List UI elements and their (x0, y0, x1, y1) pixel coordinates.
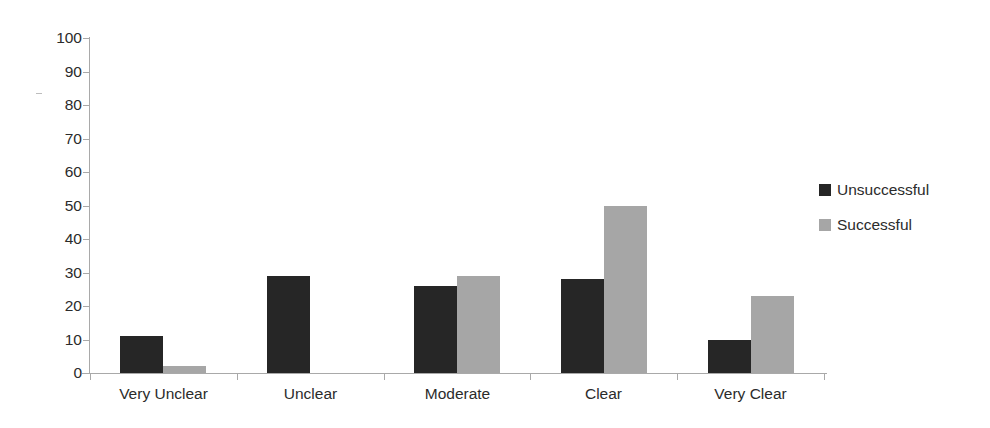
bar-unsuccessful-unclear (267, 276, 310, 373)
y-axis-tick-mark (83, 172, 90, 173)
bar-successful-clear (604, 206, 647, 374)
x-axis-tick-mark (530, 373, 531, 380)
bar-unsuccessful-clear (561, 279, 604, 373)
x-axis-tick-mark (824, 373, 825, 380)
x-axis-tick-mark (384, 373, 385, 380)
y-axis-tick-label: 30 (65, 264, 82, 282)
bar-unsuccessful-very-clear (708, 340, 751, 374)
y-axis-tick-mark (83, 306, 90, 307)
y-axis-tick-label: 100 (56, 29, 82, 47)
y-axis-tick-label: 80 (65, 96, 82, 114)
y-axis-tick-mark (83, 72, 90, 73)
legend-item-unsuccessful: Unsuccessful (819, 172, 984, 207)
y-axis-tick-mark (83, 239, 90, 240)
bar-unsuccessful-moderate (414, 286, 457, 373)
bar-successful-very-clear (751, 296, 794, 373)
dark-square-swatch (819, 184, 831, 196)
x-axis-tick-mark (90, 373, 91, 380)
y-axis-tick-mark (83, 38, 90, 39)
y-axis-tick-label: 0 (73, 364, 82, 382)
x-axis-label-moderate: Moderate (384, 385, 531, 403)
y-axis-tick-label: 20 (65, 297, 82, 315)
scan-artifact-mark (36, 93, 42, 94)
plot-area (90, 38, 825, 373)
x-axis-tick-mark (677, 373, 678, 380)
bar-chart: 1009080706050403020100 Very UnclearUncle… (0, 0, 990, 428)
bar-group (708, 38, 794, 373)
y-axis-tick-mark (83, 273, 90, 274)
bar-group (120, 38, 206, 373)
y-axis-tick-mark (83, 139, 90, 140)
y-axis-tick-mark (83, 373, 90, 374)
x-axis-line (82, 373, 827, 374)
bar-group (267, 38, 353, 373)
chart-legend: UnsuccessfulSuccessful (819, 172, 984, 242)
gray-square-swatch (819, 219, 831, 231)
bar-successful-moderate (457, 276, 500, 373)
y-axis-tick-labels: 1009080706050403020100 (30, 0, 82, 428)
bar-group (561, 38, 647, 373)
x-axis-label-very-clear: Very Clear (677, 385, 824, 403)
y-axis-tick-label: 60 (65, 163, 82, 181)
y-axis-tick-label: 40 (65, 230, 82, 248)
y-axis-tick-label: 10 (65, 331, 82, 349)
y-axis-tick-mark (83, 340, 90, 341)
x-axis-label-clear: Clear (530, 385, 677, 403)
bar-successful-very-unclear (163, 366, 206, 373)
x-axis-label-unclear: Unclear (237, 385, 384, 403)
legend-label: Successful (837, 216, 912, 234)
x-axis-tick-mark (237, 373, 238, 380)
y-axis-tick-mark (83, 206, 90, 207)
y-axis-tick-label: 50 (65, 197, 82, 215)
legend-item-successful: Successful (819, 207, 984, 242)
y-axis-tick-label: 70 (65, 130, 82, 148)
y-axis-tick-mark (83, 105, 90, 106)
legend-label: Unsuccessful (837, 181, 929, 199)
x-axis-label-very-unclear: Very Unclear (90, 385, 237, 403)
bar-unsuccessful-very-unclear (120, 336, 163, 373)
y-axis-tick-label: 90 (65, 63, 82, 81)
bar-group (414, 38, 500, 373)
